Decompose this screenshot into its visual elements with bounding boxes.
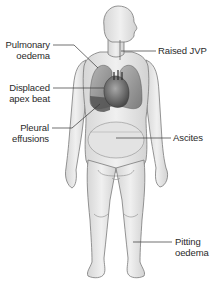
label-raised-jvp-text: Raised JVP — [158, 45, 207, 56]
label-raised-jvp: Raised JVP — [158, 45, 207, 56]
label-pulmonary-oedema-line2: oedema — [5, 50, 50, 61]
label-pleural-effusions: Pleural effusions — [12, 122, 49, 144]
label-pulmonary-oedema-line1: Pulmonary — [5, 39, 50, 50]
label-pulmonary-oedema: Pulmonary oedema — [5, 39, 50, 61]
label-pleural-effusions-line2: effusions — [12, 133, 49, 144]
heart-failure-signs-diagram: Pulmonary oedema Raised JVP Displaced ap… — [0, 0, 216, 283]
label-ascites: Ascites — [173, 132, 203, 143]
label-displaced-apex-beat-line1: Displaced — [9, 82, 50, 93]
ascites-region — [88, 122, 144, 158]
label-displaced-apex-beat: Displaced apex beat — [9, 82, 50, 104]
label-pitting-oedema: Pitting oedema — [175, 236, 209, 258]
label-pleural-effusions-line1: Pleural — [12, 122, 49, 133]
label-displaced-apex-beat-line2: apex beat — [9, 93, 50, 104]
label-pitting-oedema-line2: oedema — [175, 247, 209, 258]
label-pitting-oedema-line1: Pitting — [175, 236, 209, 247]
label-ascites-text: Ascites — [173, 132, 203, 143]
